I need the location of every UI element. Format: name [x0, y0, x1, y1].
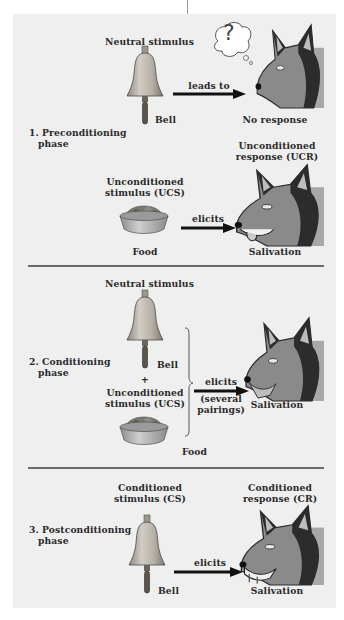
- food-caption: Food: [182, 446, 207, 457]
- bell-caption: Bell: [155, 114, 176, 125]
- ucs-heading-line2: stimulus (UCS): [105, 398, 185, 409]
- ucs-heading-line1: Unconditioned: [105, 387, 185, 398]
- question-mark-icon: ?: [223, 21, 235, 45]
- cs-heading-line2: stimulus (CS): [110, 493, 190, 504]
- bell-caption: Bell: [157, 359, 178, 370]
- phase-1-label-line1: 1. Preconditioning: [29, 127, 127, 138]
- no-response-caption: No response: [235, 114, 315, 125]
- salivation-caption: Salivation: [240, 399, 314, 410]
- food-caption: Food: [115, 246, 175, 257]
- ucr-heading-line2: response (UCR): [232, 151, 322, 162]
- arrow-right-icon: [181, 222, 237, 234]
- food-bowl-icon: [118, 418, 170, 448]
- arrow-right-icon: [173, 88, 247, 100]
- dog-salivating-icon: [235, 503, 324, 585]
- salivation-caption: Salivation: [235, 246, 315, 257]
- plus-sign: +: [135, 374, 155, 385]
- ucr-heading-line1: Unconditioned: [232, 140, 322, 151]
- phase-2-label-line2: phase: [38, 367, 69, 378]
- dog-salivating-icon: [230, 162, 324, 246]
- food-bowl-icon: [118, 207, 170, 237]
- dog-neutral-icon: [252, 22, 324, 108]
- ucs-heading-line1: Unconditioned: [105, 176, 185, 187]
- page-margin-rule: [187, 0, 188, 14]
- dog-salivating-icon: [240, 315, 324, 401]
- phase-3-label-line2: phase: [38, 535, 69, 546]
- ucs-heading-line2: stimulus (UCS): [105, 187, 185, 198]
- neutral-stimulus-heading: Neutral stimulus: [105, 278, 185, 289]
- phase-3-label-line1: 3. Postconditioning: [29, 524, 131, 535]
- bell-icon: [128, 515, 168, 595]
- cr-heading-line1: Conditioned: [235, 482, 325, 493]
- salivation-caption: Salivation: [240, 585, 314, 596]
- cs-heading-line1: Conditioned: [110, 482, 190, 493]
- phase-divider-1: [28, 265, 324, 267]
- arrow-right-icon: [174, 566, 244, 578]
- phase-divider-2: [28, 467, 324, 469]
- bell-caption: Bell: [158, 585, 179, 596]
- phase-1-label-line2: phase: [38, 138, 69, 149]
- bell-icon: [126, 290, 166, 370]
- phase-2-label-line1: 2. Conditioning: [29, 356, 110, 367]
